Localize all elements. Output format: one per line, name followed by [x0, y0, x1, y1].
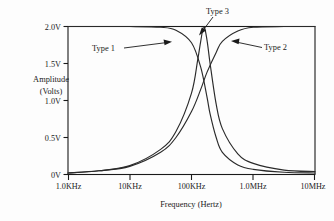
y-tick-label-2-0v: 2.0V — [45, 23, 61, 32]
x-tick-label-100khz: 100KHz — [178, 182, 206, 191]
annotation-type-2: Type 2 — [231, 39, 287, 52]
y-axis-label-line1: Amplitude — [33, 75, 69, 84]
annotation-arrowhead-type-2 — [231, 39, 240, 45]
x-axis-label: Frequency (Hertz) — [160, 200, 222, 209]
y-axis-label-line2: (Volts) — [40, 87, 63, 96]
x-tick-label-1-0mhz: 1.0MHz — [239, 182, 266, 191]
annotation-leader-type-1 — [124, 43, 167, 49]
y-axis-ticks — [64, 27, 69, 175]
y-tick-label-0-5v: 0.5V — [45, 134, 61, 143]
x-axis-ticks — [69, 175, 315, 181]
y-tick-label-0v: 0V — [51, 171, 61, 180]
chart-figure: 2.0V 1.5V 1.0V 0.5V 0V Amplitude (Volts)… — [0, 0, 334, 221]
annotation-label-type-1: Type 1 — [92, 44, 115, 53]
y-tick-label-1-0v: 1.0V — [45, 97, 61, 106]
y-tick-label-1-5v: 1.5V — [45, 60, 61, 69]
x-tick-label-1-0khz: 1.0KHz — [56, 182, 82, 191]
annotation-leader-type-3 — [203, 17, 214, 31]
annotation-type-1: Type 1 — [92, 40, 172, 53]
annotation-type-3: Type 3 — [199, 7, 229, 36]
annotation-leader-type-2 — [236, 42, 262, 48]
annotation-arrowhead-type-1 — [164, 40, 173, 46]
annotation-label-type-3: Type 3 — [206, 7, 229, 16]
amplitude-vs-frequency-chart: 2.0V 1.5V 1.0V 0.5V 0V Amplitude (Volts)… — [0, 0, 334, 221]
annotation-label-type-2: Type 2 — [264, 43, 287, 52]
x-tick-label-10mhz: 10MHz — [300, 182, 325, 191]
x-tick-label-10khz: 10KHz — [118, 182, 142, 191]
